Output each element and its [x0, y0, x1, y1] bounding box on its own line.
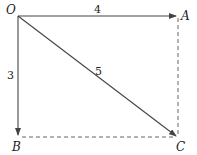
length-label-oa: 4	[94, 3, 101, 16]
vector-diagram: O A B C 4 3 5	[0, 0, 197, 155]
point-label-c: C	[176, 140, 185, 154]
diagram-svg: O A B C 4 3 5	[0, 0, 197, 155]
point-label-a: A	[180, 9, 190, 23]
length-label-oc: 5	[95, 65, 102, 78]
length-label-ob: 3	[7, 69, 14, 82]
point-label-b: B	[11, 140, 21, 154]
point-label-o: O	[6, 3, 16, 17]
